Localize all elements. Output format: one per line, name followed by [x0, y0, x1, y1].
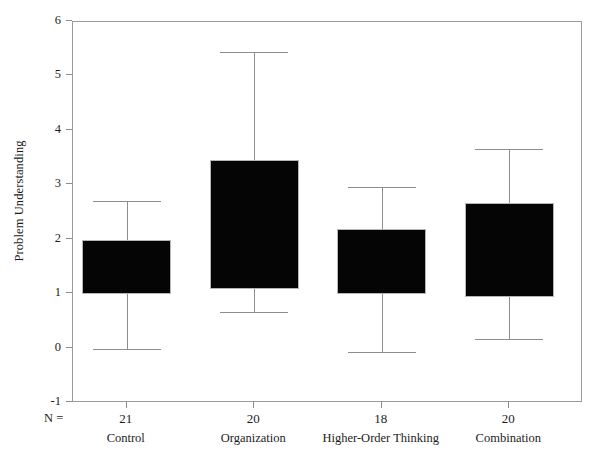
plot-area: [72, 21, 582, 402]
box-iqr-rect: [82, 240, 171, 294]
y-tick-label: 4: [55, 120, 61, 139]
boxplot-box: [82, 22, 171, 403]
x-tick-mark: [508, 402, 509, 408]
whisker-cap-lower: [348, 352, 416, 353]
whisker-cap-lower: [220, 312, 288, 313]
x-axis-group: 20Combination: [423, 409, 593, 448]
whisker-cap-upper: [475, 149, 543, 150]
whisker-cap-upper: [348, 187, 416, 188]
boxplot-box: [210, 22, 299, 403]
whisker-cap-lower: [93, 349, 161, 350]
box-iqr-rect: [210, 160, 299, 290]
whisker-cap-upper: [220, 52, 288, 53]
y-tick-label: 1: [55, 283, 61, 302]
box-iqr-rect: [337, 229, 426, 294]
boxplot-box: [337, 22, 426, 403]
x-axis-category-label: Combination: [423, 428, 593, 448]
box-iqr-rect: [465, 203, 554, 297]
boxplot-box: [465, 22, 554, 403]
y-tick-label: 0: [55, 338, 61, 357]
x-tick-mark: [126, 402, 127, 408]
y-tick-label: 2: [55, 229, 61, 248]
whisker-cap-upper: [93, 201, 161, 202]
boxplot-figure: Problem Understanding 6543210-1 N = 21Co…: [0, 0, 598, 464]
whisker-cap-lower: [475, 339, 543, 340]
y-tick-label: 6: [55, 11, 61, 30]
x-tick-mark: [381, 402, 382, 408]
y-tick-label: 3: [55, 174, 61, 193]
y-axis-title: Problem Understanding: [12, 11, 34, 392]
x-axis-n-value: 20: [423, 409, 593, 428]
x-tick-mark: [253, 402, 254, 408]
y-tick-label: 5: [55, 65, 61, 84]
